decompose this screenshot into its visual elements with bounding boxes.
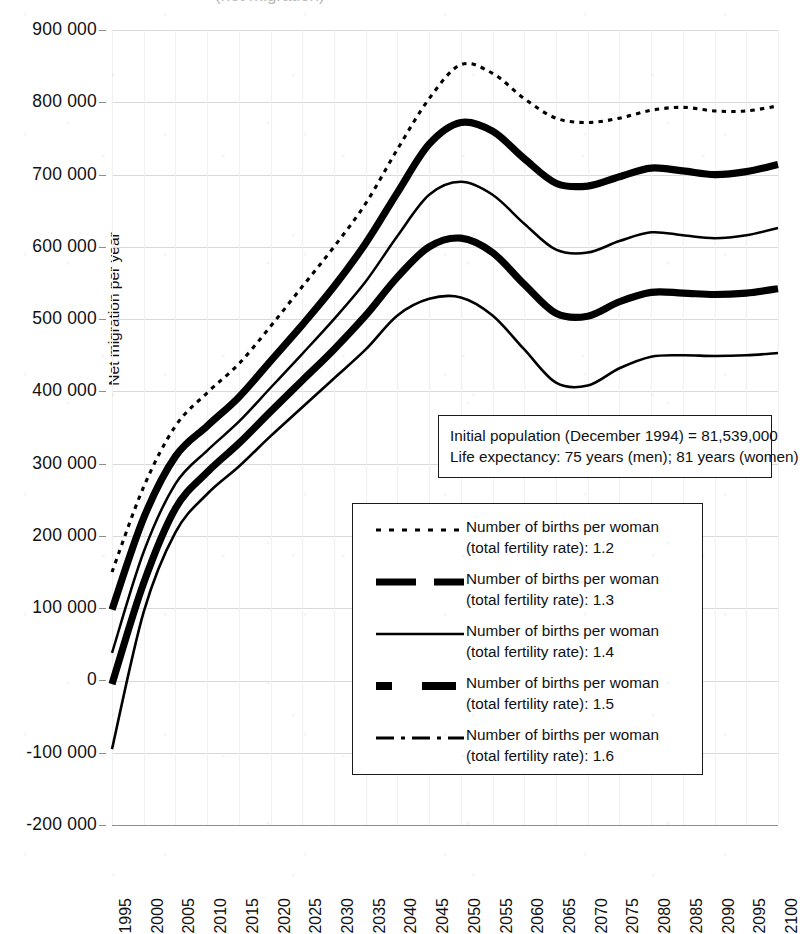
y-tick-mark (99, 680, 106, 681)
x-tick-label: 2015 (245, 898, 261, 934)
y-tick-label: -200 000 (26, 816, 97, 834)
x-tick-label: 2045 (435, 898, 451, 934)
legend-line-sample-icon (374, 522, 466, 544)
cropped-title-text: (net migration) (215, 0, 325, 6)
x-tick-label: 2100 (784, 898, 800, 934)
legend-label-line1: Number of births per woman (466, 725, 659, 746)
x-tick-label: 2070 (594, 898, 610, 934)
x-tick-label: 2010 (213, 898, 229, 934)
legend-item-tfr-1-3[interactable]: Number of births per woman(total fertili… (353, 569, 702, 621)
x-tick-label: 2035 (372, 898, 388, 934)
gridline-x-2000 (144, 30, 145, 825)
assumptions-note-box: Initial population (December 1994) = 81,… (438, 415, 772, 478)
gridline-x-1995 (112, 30, 113, 825)
legend-label-line2: (total fertility rate): 1.4 (466, 642, 659, 663)
gridline-y--200000 (112, 825, 778, 826)
gridline-y-900000 (112, 30, 778, 31)
x-tick-label: 2005 (181, 898, 197, 934)
x-tick-label: 1995 (118, 898, 134, 934)
x-tick-label: 2025 (308, 898, 324, 934)
gridline-x-2010 (207, 30, 208, 825)
legend-label-line2: (total fertility rate): 1.3 (466, 590, 659, 611)
legend-item-tfr-1-5[interactable]: Number of births per woman(total fertili… (353, 673, 702, 725)
gridline-y-400000 (112, 391, 778, 392)
legend-label-line1: Number of births per woman (466, 621, 659, 642)
legend-line-sample-icon (374, 574, 466, 596)
y-tick-label: 700 000 (32, 166, 97, 184)
y-tick-label: 500 000 (32, 310, 97, 328)
legend-label-line1: Number of births per woman (466, 569, 659, 590)
y-axis-tick-labels: 900 000800 000700 000600 000500 000400 0… (0, 0, 106, 902)
gridline-y-600000 (112, 247, 778, 248)
y-tick-mark (99, 825, 106, 826)
x-tick-label: 2055 (499, 898, 515, 934)
x-tick-label: 2020 (277, 898, 293, 934)
gridline-x-2005 (175, 30, 176, 825)
gridline-x-2030 (334, 30, 335, 825)
legend-label-line2: (total fertility rate): 1.2 (466, 538, 659, 559)
x-tick-label: 2030 (340, 898, 356, 934)
y-tick-mark (99, 102, 106, 103)
y-tick-label: 200 000 (32, 527, 97, 545)
y-tick-label: 0 (87, 671, 97, 689)
x-tick-label: 2000 (150, 898, 166, 934)
note-initial-population: Initial population (December 1994) = 81,… (450, 425, 760, 446)
x-tick-label: 2080 (657, 898, 673, 934)
y-tick-mark (99, 319, 106, 320)
x-tick-label: 2085 (689, 898, 705, 934)
gridline-y-700000 (112, 175, 778, 176)
y-tick-label: 100 000 (32, 599, 97, 617)
legend-label-line2: (total fertility rate): 1.6 (466, 746, 659, 767)
y-tick-mark (99, 464, 106, 465)
y-tick-mark (99, 536, 106, 537)
gridline-x-2015 (239, 30, 240, 825)
legend-item-label: Number of births per woman(total fertili… (466, 673, 659, 714)
legend: Number of births per woman(total fertili… (352, 503, 703, 775)
x-tick-label: 2065 (562, 898, 578, 934)
legend-item-label: Number of births per woman(total fertili… (466, 621, 659, 662)
y-tick-label: 300 000 (32, 455, 97, 473)
legend-item-tfr-1-6[interactable]: Number of births per woman(total fertili… (353, 725, 702, 777)
legend-item-tfr-1-2[interactable]: Number of births per woman(total fertili… (353, 517, 702, 569)
x-tick-label: 2050 (467, 898, 483, 934)
gridline-y-500000 (112, 319, 778, 320)
x-axis-tick-labels: 1995200020052010201520202025203020352040… (112, 828, 778, 902)
legend-label-line1: Number of births per woman (466, 673, 659, 694)
cropped-title-fragment: (net migration) (0, 0, 778, 14)
legend-label-line1: Number of births per woman (466, 517, 659, 538)
y-tick-mark (99, 753, 106, 754)
y-tick-mark (99, 391, 106, 392)
gridline-x-2100 (778, 30, 779, 825)
x-tick-label: 2095 (752, 898, 768, 934)
legend-line-sample-icon (374, 678, 466, 700)
legend-line-sample-icon (374, 730, 466, 752)
y-tick-mark (99, 247, 106, 248)
legend-item-label: Number of births per woman(total fertili… (466, 725, 659, 766)
y-tick-label: -100 000 (26, 744, 97, 762)
gridline-y-800000 (112, 102, 778, 103)
y-tick-mark (99, 30, 106, 31)
y-tick-label: 600 000 (32, 238, 97, 256)
y-tick-label: 900 000 (32, 21, 97, 39)
x-tick-label: 2075 (625, 898, 641, 934)
y-tick-mark (99, 608, 106, 609)
gridline-x-2020 (271, 30, 272, 825)
legend-item-label: Number of births per woman(total fertili… (466, 569, 659, 610)
y-tick-label: 400 000 (32, 382, 97, 400)
x-tick-label: 2040 (403, 898, 419, 934)
y-tick-label: 800 000 (32, 93, 97, 111)
legend-item-label: Number of births per woman(total fertili… (466, 517, 659, 558)
note-life-expectancy: Life expectancy: 75 years (men); 81 year… (450, 446, 760, 467)
legend-label-line2: (total fertility rate): 1.5 (466, 694, 659, 715)
gridline-x-2025 (302, 30, 303, 825)
y-tick-mark (99, 175, 106, 176)
x-tick-label: 2090 (721, 898, 737, 934)
legend-item-tfr-1-4[interactable]: Number of births per woman(total fertili… (353, 621, 702, 673)
x-tick-label: 2060 (530, 898, 546, 934)
legend-line-sample-icon (374, 626, 466, 648)
series-line-tfr-1-2 (112, 63, 778, 572)
